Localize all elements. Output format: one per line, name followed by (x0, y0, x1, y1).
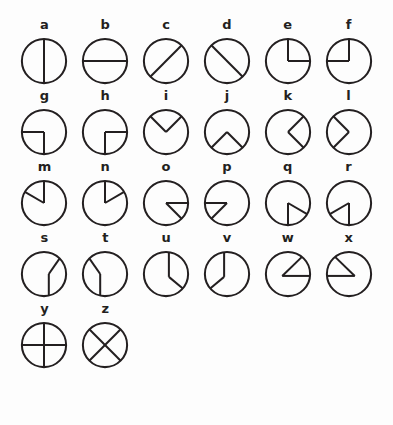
symbol-label-a: a (40, 18, 49, 33)
symbol-label-t: t (102, 231, 108, 246)
symbol-figure-bent-line-top-to-lower-right (141, 249, 191, 299)
symbol-cell-z: z (75, 302, 136, 373)
symbol-label-r: r (345, 160, 351, 175)
segment-1 (335, 257, 355, 276)
symbol-cell-c: c (136, 18, 197, 89)
symbol-cell-l: l (318, 89, 379, 160)
segment-1 (227, 132, 243, 148)
symbol-figure-right-angle-upper-left (324, 36, 374, 86)
symbol-cell-r: r (318, 160, 379, 231)
segment-1 (210, 277, 224, 289)
segment-1 (329, 203, 348, 214)
symbol-figure-diagonal-diameter-up-right (141, 36, 191, 86)
symbol-cell-p: p (196, 160, 257, 231)
symbol-cell-g: g (14, 89, 75, 160)
segment-1 (169, 277, 183, 289)
symbol-figure-right-angle-lower-right (263, 36, 313, 86)
symbol-figure-vee-open-down (202, 107, 252, 157)
segment-1 (25, 192, 44, 203)
symbol-label-d: d (222, 18, 231, 33)
segment-1 (105, 192, 124, 203)
segment-0 (49, 258, 60, 274)
symbol-cell-e: e (257, 18, 318, 89)
symbol-label-s: s (41, 231, 49, 246)
segment-1 (333, 132, 349, 148)
symbol-label-v: v (223, 231, 231, 246)
segment-1 (211, 203, 227, 219)
symbol-cell-o: o (136, 160, 197, 231)
symbol-cell-t: t (75, 231, 136, 302)
symbol-label-w: w (282, 231, 294, 246)
symbol-cell-s: s (14, 231, 75, 302)
symbol-figure-narrow-wedge-left-down (202, 178, 252, 228)
symbol-figure-narrow-wedge-up-right (80, 178, 130, 228)
symbol-cell-x: x (318, 231, 379, 302)
symbol-label-p: p (222, 160, 231, 175)
symbol-figure-horizontal-diameter (80, 36, 130, 86)
symbol-label-n: n (101, 160, 110, 175)
symbol-figure-narrow-wedge-right-down (141, 178, 191, 228)
symbol-label-g: g (40, 89, 49, 104)
symbol-cell-k: k (257, 89, 318, 160)
segment-0 (211, 45, 242, 76)
symbol-label-b: b (101, 18, 110, 33)
symbol-figure-right-angle-lower-right-down (80, 107, 130, 157)
symbol-label-y: y (40, 302, 48, 317)
symbol-grid: abcdefghijklmnopqrstuvwxyz (0, 0, 393, 425)
segment-0 (333, 116, 349, 132)
symbol-label-e: e (283, 18, 292, 33)
segment-1 (166, 116, 182, 132)
circle-outline (326, 252, 370, 296)
circle-outline (144, 252, 188, 296)
symbol-label-x: x (344, 231, 352, 246)
segment-1 (288, 203, 307, 214)
symbol-label-m: m (38, 160, 52, 175)
symbol-label-q: q (283, 160, 292, 175)
symbol-label-c: c (162, 18, 170, 33)
symbol-figure-cross-plus (19, 320, 69, 370)
symbol-cell-i: i (136, 89, 197, 160)
symbol-cell-b: b (75, 18, 136, 89)
symbol-label-j: j (225, 89, 229, 104)
symbol-label-k: k (283, 89, 292, 104)
symbol-cell-d: d (196, 18, 257, 89)
symbol-cell-h: h (75, 89, 136, 160)
symbol-figure-right-angle-lower-left (19, 107, 69, 157)
symbol-figure-vee-open-up (141, 107, 191, 157)
symbol-figure-cross-diagonal (80, 320, 130, 370)
symbol-figure-vee-open-left (324, 107, 374, 157)
symbol-label-u: u (161, 231, 170, 246)
symbol-figure-vee-open-right (263, 107, 313, 157)
symbol-label-h: h (101, 89, 110, 104)
symbol-figure-bent-line-upper-left-to-bottom (80, 249, 130, 299)
symbol-label-o: o (162, 160, 171, 175)
symbol-figure-narrow-wedge-down-right (263, 178, 313, 228)
symbol-cell-v: v (196, 231, 257, 302)
symbol-cell-q: q (257, 160, 318, 231)
segment-0 (150, 116, 166, 132)
symbol-figure-bent-line-upper-right-to-bottom (19, 249, 69, 299)
figure-root: abcdefghijklmnopqrstuvwxyz (0, 0, 393, 425)
segment-0 (288, 116, 304, 132)
symbol-figure-bent-line-top-to-lower-left (202, 249, 252, 299)
symbol-figure-narrow-wedge-left-up-offset-right (324, 249, 374, 299)
symbol-label-f: f (346, 18, 352, 33)
segment-0 (90, 258, 101, 274)
symbol-figure-narrow-wedge-up-left (19, 178, 69, 228)
circle-outline (266, 252, 310, 296)
symbol-cell-a: a (14, 18, 75, 89)
segment-1 (282, 257, 302, 276)
symbol-cell-n: n (75, 160, 136, 231)
symbol-figure-narrow-wedge-right-up-offset-left (263, 249, 313, 299)
segment-0 (150, 45, 181, 76)
symbol-cell-m: m (14, 160, 75, 231)
symbol-cell-u: u (136, 231, 197, 302)
segment-0 (211, 132, 227, 148)
symbol-cell-w: w (257, 231, 318, 302)
circle-outline (205, 252, 249, 296)
symbol-cell-j: j (196, 89, 257, 160)
symbol-figure-diagonal-diameter-down-right (202, 36, 252, 86)
segment-1 (166, 203, 182, 219)
symbol-cell-f: f (318, 18, 379, 89)
segment-1 (288, 132, 304, 148)
